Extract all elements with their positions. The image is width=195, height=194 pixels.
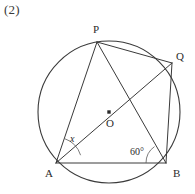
vertex-label-B: B	[173, 167, 180, 179]
segment-QB	[166, 63, 172, 163]
center-point-dot	[107, 110, 110, 113]
vertex-label-Q: Q	[176, 50, 184, 62]
geometry-figure: (2) P Q A B O x 60°	[0, 0, 195, 194]
segment-PB	[97, 42, 166, 163]
angle-label-60-degrees: 60°	[130, 146, 144, 157]
angle-label-x: x	[69, 133, 75, 144]
angle-arc-at-B	[146, 147, 155, 163]
vertex-label-A: A	[45, 167, 53, 179]
vertex-label-O: O	[106, 117, 114, 129]
geometry-canvas: P Q A B O x 60°	[0, 0, 195, 194]
vertex-label-P: P	[93, 23, 99, 35]
